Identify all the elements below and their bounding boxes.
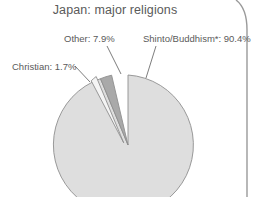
slice-label-christian: Christian: 1.7%	[12, 61, 76, 72]
page-edge-curve	[236, 0, 247, 197]
slice-label-other: Other: 7.9%	[64, 33, 115, 44]
slice-label-shinto-buddhism: Shinto/Buddhism*: 90.4%	[143, 33, 251, 44]
pie-chart-figure: Japan: major religions Other: 7.9% Shint…	[0, 0, 259, 197]
page-edge-decoration	[0, 0, 259, 197]
